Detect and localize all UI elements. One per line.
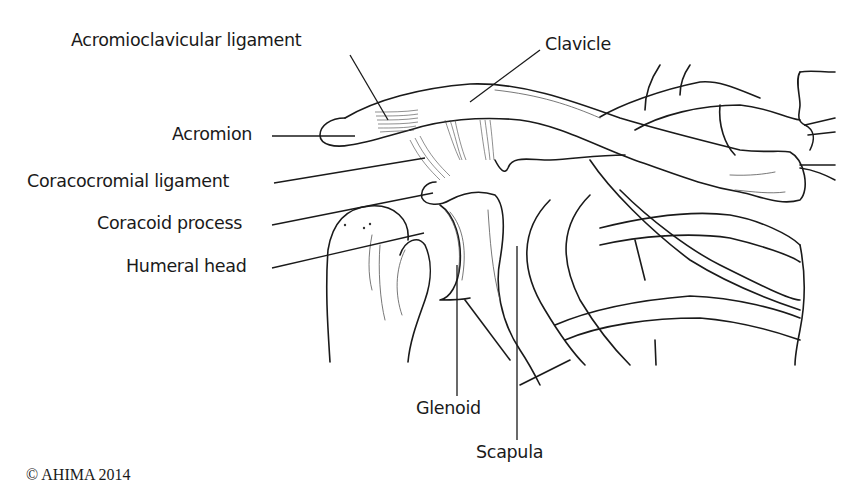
label-coracocromial-ligament: Coracocromial ligament — [27, 171, 229, 191]
label-clavicle: Clavicle — [545, 34, 611, 54]
coracoclavicular-ligament-fibers — [410, 120, 494, 180]
copyright-notice: © AHIMA 2014 — [26, 466, 131, 484]
humerus-bone — [327, 206, 431, 362]
rib-cage — [520, 160, 804, 385]
acromion-bone — [320, 118, 410, 146]
leader-coracoid-process — [272, 193, 433, 225]
label-scapula: Scapula — [476, 442, 543, 462]
leader-coracocromial-ligament — [274, 158, 425, 183]
label-acromion: Acromion — [172, 124, 252, 144]
coracoid-and-scapula — [422, 155, 625, 385]
label-coracoid-process: Coracoid process — [97, 213, 242, 233]
leader-clavicle — [470, 50, 540, 102]
label-humeral-head: Humeral head — [126, 256, 247, 276]
glenoid-fossa — [440, 205, 470, 300]
clavicle-bone — [345, 84, 805, 202]
leader-acromioclavicular-ligament — [350, 55, 388, 120]
shoulder-anatomy-illustration — [0, 0, 868, 492]
label-acromioclavicular-ligament: Acromioclavicular ligament — [71, 30, 301, 50]
label-glenoid: Glenoid — [416, 398, 481, 418]
